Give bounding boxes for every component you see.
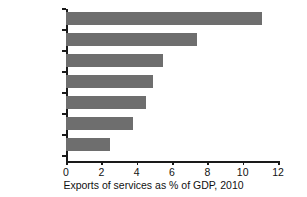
bar-japan: [66, 138, 110, 151]
x-axis-tick-label: 0: [51, 166, 81, 178]
bar-row: UK: [66, 12, 262, 25]
bar-us: [66, 117, 133, 130]
bar-france: [66, 54, 163, 67]
bar-row: Germany: [66, 33, 197, 46]
x-axis-title: Exports of services as % of GDP, 2010: [0, 179, 307, 191]
x-axis-tick: [207, 161, 209, 165]
y-axis-tick: [62, 113, 66, 115]
x-axis-tick-label: 4: [122, 166, 152, 178]
bar-row: US: [66, 117, 133, 130]
plot-area: UKGermanyFranceItalyCanadaUSJapan: [66, 10, 278, 160]
y-axis-tick: [62, 71, 66, 73]
y-axis-tick: [62, 29, 66, 31]
y-axis-tick: [62, 134, 66, 136]
bar-row: Italy: [66, 75, 153, 88]
x-axis-tick: [243, 161, 245, 165]
bar-chart: UKGermanyFranceItalyCanadaUSJapan 024681…: [0, 0, 307, 197]
bar-row: Canada: [66, 96, 146, 109]
x-axis-tick: [172, 161, 174, 165]
x-axis-tick-label: 10: [228, 166, 258, 178]
x-axis-tick-label: 2: [86, 166, 116, 178]
x-axis-tick-label: 12: [263, 166, 293, 178]
bar-uk: [66, 12, 262, 25]
x-axis-tick-label: 8: [192, 166, 222, 178]
x-axis-tick: [137, 161, 139, 165]
bar-canada: [66, 96, 146, 109]
y-axis-tick: [62, 155, 66, 157]
bar-italy: [66, 75, 153, 88]
x-axis-tick-label: 6: [157, 166, 187, 178]
bar-row: Japan: [66, 138, 110, 151]
x-axis-tick: [278, 161, 280, 165]
x-axis-tick: [101, 161, 103, 165]
bar-row: France: [66, 54, 163, 67]
y-axis-tick: [62, 92, 66, 94]
y-axis-tick: [62, 50, 66, 52]
bar-germany: [66, 33, 197, 46]
x-axis-tick: [66, 161, 68, 165]
y-axis-tick: [62, 8, 66, 10]
